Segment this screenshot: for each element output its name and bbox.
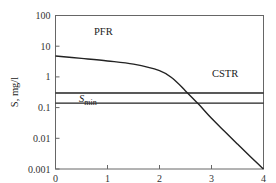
pfr-label: PFR <box>94 26 113 37</box>
reactor-concentration-chart: 1001010.10.010.001 01234 PFR CSTR Smin S… <box>0 0 276 183</box>
x-tick-label: 2 <box>157 173 162 183</box>
y-tick-label: 0.001 <box>28 164 51 175</box>
y-tick-label: 10 <box>41 41 51 52</box>
smin-label: Smin <box>79 93 97 107</box>
x-tick-label: 4 <box>261 173 266 183</box>
plot-frame <box>56 16 264 170</box>
y-axis-title: S, mg/l <box>9 77 20 107</box>
x-tick-label: 0 <box>53 173 58 183</box>
y-tick-label: 100 <box>36 10 51 21</box>
y-tick-label: 1 <box>46 71 51 82</box>
smin-label-sub: min <box>84 98 96 107</box>
x-axis-ticks: 01234 <box>53 165 266 183</box>
x-tick-label: 3 <box>209 173 214 183</box>
y-tick-label: 0.1 <box>38 102 51 113</box>
x-tick-label: 1 <box>105 173 110 183</box>
y-tick-label: 0.01 <box>33 133 51 144</box>
cstr-label: CSTR <box>212 68 238 79</box>
y-axis-ticks: 1001010.10.010.001 <box>28 10 60 175</box>
